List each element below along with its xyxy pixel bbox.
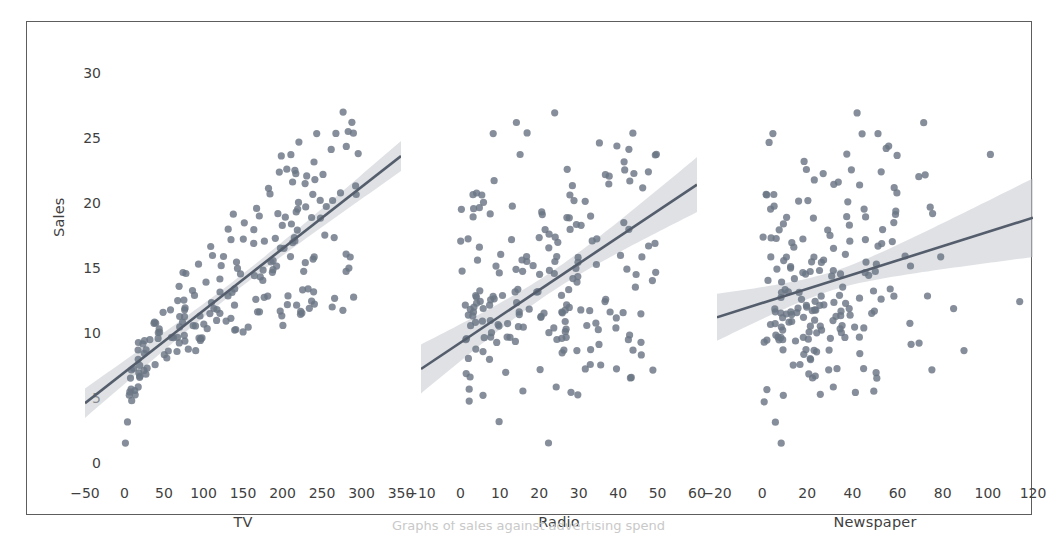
x-tick-label: 0 [758,486,767,500]
scatter-point [491,177,498,184]
scatter-point [545,244,552,251]
scatter-point [465,355,472,362]
tv-panel: −50050100150200250300350 TV [85,54,401,478]
scatter-point [633,271,640,278]
scatter-point [612,324,619,331]
scatter-point [310,158,317,165]
x-tick-label: 0 [120,486,129,500]
x-tick-label: 200 [269,486,296,500]
scatter-point [497,251,504,258]
scatter-point [860,324,867,331]
scatter-point [519,387,526,394]
scatter-point [279,322,286,329]
scatter-point [560,347,567,354]
scatter-point [496,269,503,276]
scatter-point [165,347,172,354]
scatter-point [209,252,216,259]
scatter-point [321,232,328,239]
scatter-point [883,145,890,152]
scatter-point [513,119,520,126]
scatter-point [329,303,336,310]
scatter-point [790,244,797,251]
scatter-point [234,265,241,272]
x-tick-label: 50 [649,486,667,500]
scatter-point [878,296,885,303]
scatter-point [874,130,881,137]
scatter-point [927,204,934,211]
scatter-point [595,326,602,333]
scatter-point [1016,298,1023,305]
newspaper-x-tick-labels: −20020406080100120 [717,486,1033,504]
scatter-point [602,171,609,178]
x-tick-label: 40 [844,486,862,500]
scatter-point [218,262,225,269]
scatter-point [638,351,645,358]
scatter-point [868,310,875,317]
scatter-point [922,171,929,178]
scatter-point [890,293,897,300]
scatter-point [216,275,223,282]
scatter-point [842,300,849,307]
scatter-point [847,312,854,319]
scatter-point [894,152,901,159]
scatter-point [629,130,636,137]
scatter-point [241,219,248,226]
x-tick-label: 60 [889,486,907,500]
scatter-point [777,309,784,316]
scatter-point [837,325,844,332]
scatter-point [504,320,511,327]
scatter-point [833,365,840,372]
scatter-point [195,335,202,342]
scatter-point [820,301,827,308]
scatter-point [827,335,834,342]
scatter-point [811,317,818,324]
scatter-point [836,292,843,299]
scatter-point [597,361,604,368]
scatter-point [220,253,227,260]
scatter-point [300,268,307,275]
scatter-point [630,170,637,177]
scatter-point [808,258,815,265]
scatter-point [783,214,790,221]
scatter-point [587,361,594,368]
scatter-point [345,265,352,272]
scatter-point [593,261,600,268]
scatter-point [915,173,922,180]
scatter-point [812,372,819,379]
scatter-point [639,184,646,191]
scatter-point [253,205,260,212]
x-tick-label: 80 [934,486,952,500]
scatter-point [773,266,780,273]
scatter-point [617,252,624,259]
scatter-point [476,287,483,294]
scatter-point [807,268,814,275]
scatter-point [607,308,614,315]
scatter-point [479,318,486,325]
scatter-point [769,130,776,137]
scatter-point [860,365,867,372]
scatter-point [339,307,346,314]
scatter-point [504,334,511,341]
scatter-point [830,299,837,306]
scatter-point [486,356,493,363]
scatter-point [613,314,620,321]
x-tick-label: −10 [406,486,436,500]
scatter-point [837,308,844,315]
scatter-point [595,341,602,348]
scatter-point [128,385,135,392]
scatter-point [800,314,807,321]
scatter-point [846,238,853,245]
scatter-point [537,366,544,373]
scatter-point [474,257,481,264]
scatter-point [269,266,276,273]
scatter-point [303,172,310,179]
scatter-point [283,166,290,173]
scatter-point [772,320,779,327]
scatter-point [779,346,786,353]
scatter-point [613,142,620,149]
scatter-point [565,286,572,293]
scatter-point [792,337,799,344]
scatter-point [302,259,309,266]
scatter-point [308,214,315,221]
scatter-point [309,191,316,198]
